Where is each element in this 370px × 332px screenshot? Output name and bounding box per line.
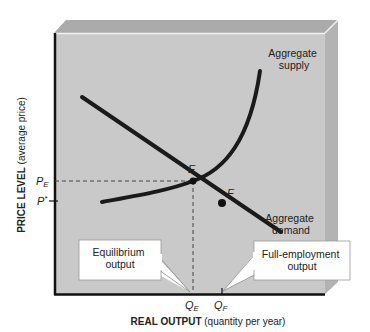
qe-tick-label: QE bbox=[185, 299, 200, 313]
point-e bbox=[190, 178, 197, 185]
point-f bbox=[218, 199, 226, 207]
qf-tick-label: QF bbox=[214, 299, 229, 313]
point-e-label: E bbox=[188, 163, 196, 175]
aggregate-demand-label: Aggregate demand bbox=[265, 212, 316, 236]
ad-as-diagram: E F Aggregate supply Aggregate demand Eq… bbox=[0, 0, 370, 332]
panel-top-bevel bbox=[54, 20, 338, 33]
pe-tick-label: PE bbox=[36, 175, 49, 189]
y-axis-title: PRICE LEVEL (average price) bbox=[16, 97, 27, 233]
x-axis-title: REAL OUTPUT (quantity per year) bbox=[131, 316, 286, 327]
p-star-tick-label: P* bbox=[37, 194, 48, 207]
